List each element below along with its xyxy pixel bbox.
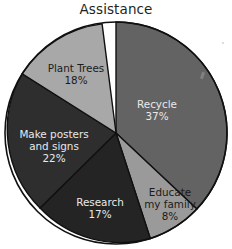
pie-chart-plot-area: Recycle 37% Plant Trees 18% Make posters…	[0, 0, 232, 249]
scan-artifact-speck	[222, 42, 224, 44]
pie-chart-figure: Assistance Recycle 37% Plant Trees 18%	[0, 0, 232, 249]
pie-svg	[0, 0, 232, 249]
